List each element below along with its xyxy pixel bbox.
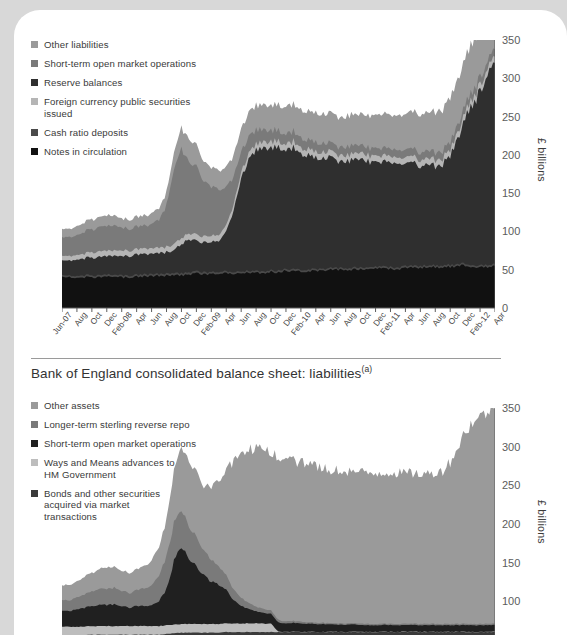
chart-assets-plot <box>62 408 495 635</box>
legend-swatch-icon <box>31 98 38 105</box>
caption-divider <box>31 358 501 359</box>
chart-liabilities-y-axis-title: £ billions <box>536 138 548 182</box>
y-axis-assets-tick: 200 <box>502 518 520 530</box>
x-axis-liabilities-tick: Oct <box>267 310 283 326</box>
legend-swatch-icon <box>31 402 38 409</box>
caption-footnote: (a) <box>361 364 372 374</box>
document-page: Other liabilitiesShort-term open market … <box>14 10 567 635</box>
y-axis-assets-tick: 350 <box>502 402 520 414</box>
x-axis-liabilities-tick: Oct <box>177 310 193 326</box>
x-axis-liabilities-tick: Aug <box>72 310 89 328</box>
x-axis-liabilities-tick: Apr <box>401 310 417 326</box>
x-axis-liabilities-tick: Jun <box>147 310 163 327</box>
x-axis-liabilities-tick: Oct <box>88 310 104 326</box>
x-axis-liabilities-tick: Aug <box>161 310 178 328</box>
x-axis-liabilities-tick: Jun <box>237 310 253 327</box>
x-axis-liabilities-tick: Jun <box>326 310 342 327</box>
y-axis-assets-tick: 150 <box>502 557 520 569</box>
y-axis-liabilities-tick: 150 <box>502 187 520 199</box>
x-axis-liabilities-tick: Oct <box>357 310 373 326</box>
chart-liabilities: Other liabilitiesShort-term open market … <box>14 10 567 355</box>
x-axis-liabilities-tick: Aug <box>430 310 447 328</box>
legend-swatch-icon <box>31 148 38 155</box>
x-axis-liabilities-tick: Oct <box>446 310 462 326</box>
chart-assets-y-axis-title: £ billions <box>536 500 548 544</box>
x-axis-liabilities-tick: Jun <box>416 310 432 327</box>
legend-swatch-icon <box>31 421 38 428</box>
chart-liabilities-x-axis: Jun-07AugOctDecFeb-08AprJunAugOctDecFeb-… <box>62 310 495 354</box>
legend-swatch-icon <box>31 79 38 86</box>
x-axis-liabilities-tick: Jun-07 <box>50 310 74 336</box>
caption-text: Bank of England consolidated balance she… <box>31 366 361 381</box>
chart-liabilities-plot <box>62 40 495 308</box>
legend-swatch-icon <box>31 490 38 497</box>
y-axis-assets-tick: 300 <box>502 441 520 453</box>
chart-liabilities-caption: Bank of England consolidated balance she… <box>31 364 372 381</box>
x-axis-liabilities-tick: Apr <box>133 310 149 326</box>
y-axis-assets-tick: 100 <box>502 595 520 607</box>
legend-swatch-icon <box>31 440 38 447</box>
y-axis-liabilities-tick: 200 <box>502 149 520 161</box>
y-axis-liabilities-tick: 250 <box>502 111 520 123</box>
y-axis-assets-tick: 250 <box>502 479 520 491</box>
chart-assets-y-axis: 35030025020015010050 <box>502 408 532 635</box>
y-axis-liabilities-tick: 350 <box>502 34 520 46</box>
y-axis-liabilities-tick: 100 <box>502 225 520 237</box>
legend-swatch-icon <box>31 459 38 466</box>
legend-swatch-icon <box>31 129 38 136</box>
legend-swatch-icon <box>31 60 38 67</box>
x-axis-liabilities-tick: Aug <box>251 310 268 328</box>
x-axis-liabilities-tick: Aug <box>341 310 358 328</box>
chart-assets: Other assetsLonger-term sterling reverse… <box>14 390 567 635</box>
x-axis-liabilities-tick: Apr <box>222 310 238 326</box>
chart-liabilities-y-axis: 350300250200150100500 <box>502 40 532 308</box>
y-axis-liabilities-tick: 50 <box>502 264 514 276</box>
legend-swatch-icon <box>31 41 38 48</box>
y-axis-liabilities-tick: 300 <box>502 72 520 84</box>
x-axis-liabilities-tick: Apr <box>312 310 328 326</box>
